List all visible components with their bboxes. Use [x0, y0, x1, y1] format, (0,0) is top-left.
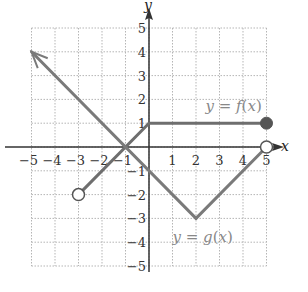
- y-tick-label: 3: [138, 69, 146, 84]
- x-tick-label: −4: [42, 153, 61, 168]
- x-tick-label: 2: [192, 153, 200, 168]
- y-axis-label: y: [143, 0, 153, 13]
- g-label: y = g(x): [172, 228, 233, 246]
- y-tick-label: −3: [127, 211, 146, 226]
- x-axis-label: x: [281, 138, 289, 154]
- graph-canvas: −5−4−3−2−11234554321−1−2−3−4−5 y = f(x)y…: [0, 0, 308, 292]
- y-tick-label: −4: [127, 235, 146, 250]
- x-tick-label: 3: [215, 153, 223, 168]
- open-endpoint-icon: [261, 141, 273, 153]
- f-label: y = f(x): [204, 97, 261, 115]
- closed-endpoint-icon: [261, 117, 273, 129]
- x-tick-label: −5: [19, 153, 38, 168]
- curve-segment: [32, 52, 197, 219]
- y-tick-label: −2: [127, 188, 146, 203]
- function-curves: [32, 52, 273, 219]
- function-labels: y = f(x)y = g(x): [172, 97, 262, 246]
- open-endpoint-icon: [73, 189, 85, 201]
- x-tick-label: 5: [262, 153, 270, 168]
- y-tick-label: 5: [138, 21, 146, 36]
- x-tick-label: −3: [66, 153, 85, 168]
- y-tick-label: −5: [127, 259, 146, 274]
- curve-segment: [196, 147, 267, 218]
- y-tick-label: 4: [138, 45, 146, 60]
- y-tick-label: 2: [138, 92, 146, 107]
- x-tick-label: 1: [168, 153, 176, 168]
